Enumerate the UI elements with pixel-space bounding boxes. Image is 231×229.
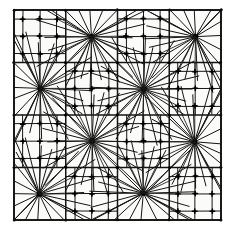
node-marker-dot [38,35,41,38]
node-marker-dot [91,193,94,196]
node-marker-dot [125,35,128,38]
node-marker-dot [55,158,58,161]
node-marker-dot [39,122,42,125]
node-marker-dot [21,157,24,160]
node-marker-dot [21,18,24,21]
node-marker-dot [22,140,25,143]
hub-to-node-connector [39,158,40,194]
node-marker-dot [142,53,145,56]
node-marker-dot [107,105,110,108]
node-marker-dot [21,123,24,126]
node-marker-dot [90,176,93,179]
node-marker-dot [125,52,128,55]
node-marker-dot [142,140,145,143]
node-marker-dot [159,157,162,160]
hub-to-node-connector [92,141,126,142]
node-marker-dot [90,104,93,107]
node-marker-dot [90,70,93,73]
node-marker-dot [38,17,41,20]
macro-grid-node [116,113,119,116]
macro-grid-node [64,114,67,117]
node-marker-dot [194,71,197,74]
node-marker-dot [159,35,162,38]
node-marker-dot [125,158,128,161]
node-marker-dot [194,105,197,108]
node-marker-dot [177,70,180,73]
node-marker-dot [142,157,145,160]
node-marker-dot [91,87,94,90]
node-marker-dot [56,122,59,125]
node-marker-dot [39,140,42,143]
node-marker-dot [125,140,128,143]
node-marker-dot [39,53,42,56]
macro-grid-node [168,114,171,117]
node-marker-dot [74,70,77,73]
node-marker-dot [194,87,197,90]
node-marker-dot [211,87,214,90]
node-marker-dot [125,17,128,20]
node-marker-dot [177,210,180,213]
node-marker-dot [107,175,110,178]
figure-root [0,0,231,229]
node-marker-dot [177,87,180,90]
node-marker-dot [160,123,163,126]
node-marker-dot [56,35,59,38]
node-marker-dot [142,122,145,125]
node-marker-dot [159,17,162,20]
node-marker-dot [211,193,214,196]
macro-grid-node [168,166,171,169]
node-marker-dot [56,140,59,143]
macro-grid-node [116,166,119,169]
node-marker-dot [91,210,94,213]
node-marker-dot [107,210,110,213]
node-marker-dot [56,18,59,21]
hub-to-node-connector [92,106,93,141]
node-marker-dot [194,175,197,178]
node-marker-dot [38,157,41,160]
node-marker-dot [73,87,76,90]
macro-grid-node [65,166,68,169]
node-marker-dot [142,17,145,20]
macro-grid-node [116,61,119,64]
node-marker-dot [73,175,76,178]
node-marker-dot [211,210,214,213]
node-marker-dot [159,52,162,55]
node-marker-dot [194,210,197,213]
node-marker-dot [177,105,180,108]
node-marker-dot [211,71,214,74]
node-marker-dot [125,123,128,126]
node-marker-dot [177,193,180,196]
mesh-diagram [0,0,231,229]
node-marker-dot [56,52,59,55]
node-marker-dot [194,192,197,195]
node-marker-dot [107,192,110,195]
node-marker-dot [211,105,214,108]
node-marker-dot [21,52,24,55]
macro-grid-node [168,61,171,64]
node-marker-dot [22,35,25,38]
node-marker-dot [159,140,162,143]
macro-grid-node [64,61,67,64]
node-marker-dot [211,175,214,178]
node-marker-dot [74,193,77,196]
node-marker-dot [177,175,180,178]
node-marker-dot [107,88,110,91]
node-marker-dot [74,210,77,213]
node-marker-dot [107,70,110,73]
node-marker-dot [74,105,77,108]
node-marker-dot [142,35,145,38]
